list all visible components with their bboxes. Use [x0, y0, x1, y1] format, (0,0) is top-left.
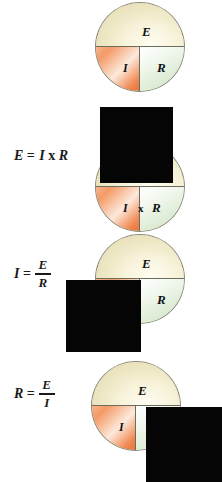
formula-factor-b: R — [59, 148, 69, 164]
formula-equals: = — [27, 148, 35, 164]
wheel-segment-resistance — [140, 47, 184, 91]
fraction-denominator: R — [35, 275, 50, 290]
fraction-numerator: E — [35, 258, 50, 273]
formula-equals: = — [27, 386, 35, 402]
cover-rectangle-voltage — [100, 107, 173, 183]
formula-lhs: I — [14, 266, 20, 282]
formula-fraction: E R — [35, 258, 50, 289]
wheel-segment-voltage — [96, 3, 184, 47]
diagram-row-solve-voltage: E = I x R I x R — [0, 95, 199, 220]
wheel-segment-resistance — [140, 279, 184, 323]
formula-equals: = — [23, 266, 31, 282]
formula-factor-a: I — [39, 148, 45, 164]
formula-current: I = E R — [14, 258, 51, 289]
diagram-row-solve-current: I = E R E R — [0, 220, 199, 345]
fraction-denominator: I — [41, 395, 53, 410]
formula-multiply-operator: x — [48, 148, 56, 164]
cover-rectangle-current — [66, 280, 141, 352]
wheel-segment-current — [92, 406, 136, 450]
diagram-row-solve-resistance: R = E I E I — [0, 345, 199, 478]
wheel-segment-voltage — [96, 235, 184, 279]
cover-rectangle-resistance — [146, 407, 222, 482]
formula-resistance: R = E I — [14, 378, 55, 409]
wheel-segment-current — [96, 47, 140, 91]
formula-voltage: E = I x R — [14, 148, 69, 164]
formula-fraction: E I — [39, 378, 54, 409]
fraction-numerator: E — [39, 378, 54, 393]
diagram-row-reference: E I R — [0, 0, 199, 95]
formula-lhs: R — [14, 386, 24, 402]
formula-lhs: E — [14, 148, 24, 164]
ohm-wheel-circle — [96, 3, 184, 91]
wheel-segment-voltage — [92, 362, 180, 406]
